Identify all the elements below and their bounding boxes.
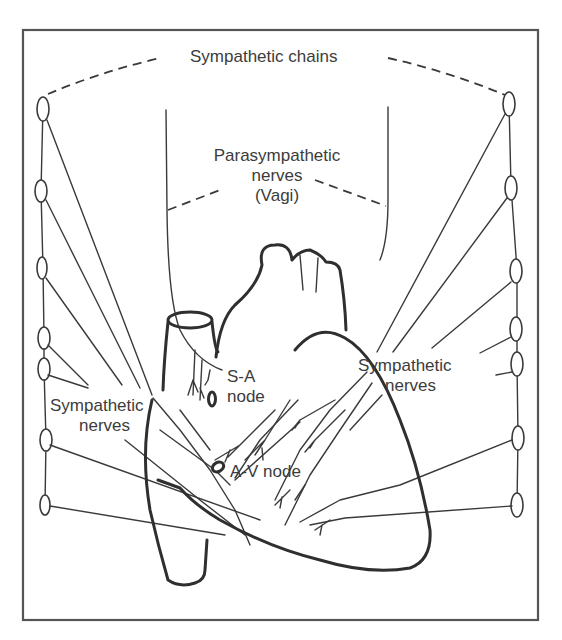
label-parasympathetic-line2: nerves [195, 166, 359, 185]
sympathetic-chain-left-dashed [48, 58, 160, 94]
heart-innervation-illustration [0, 0, 562, 640]
heart-outline [145, 245, 430, 585]
label-sympathetic-chains: Sympathetic chains [190, 47, 337, 66]
nerve-terminal-branches [188, 350, 345, 535]
sympathetic-chain-right-dashed [388, 58, 505, 95]
label-sa-node-line1: S-A [227, 367, 255, 386]
label-sympathetic-nerves-right-line2: nerves [385, 376, 436, 395]
label-sympathetic-nerves-right-line1: Sympathetic [358, 356, 452, 375]
label-parasympathetic-line1: Parasympathetic [195, 146, 359, 165]
left-sympathetic-chain [35, 97, 52, 515]
right-sympathetic-chain [503, 92, 524, 517]
label-sympathetic-nerves-left-line1: Sympathetic [50, 396, 144, 415]
label-sa-node-line2: node [227, 387, 265, 406]
ganglion-icon [37, 97, 49, 121]
label-parasympathetic-line3: (Vagi) [195, 186, 359, 205]
diagram-frame [23, 30, 538, 620]
label-sympathetic-nerves-left-line2: nerves [79, 416, 130, 435]
diagram-canvas: Sympathetic chains Parasympathetic nerve… [0, 0, 562, 640]
label-av-node: A-V node [230, 462, 301, 481]
sa-node-icon [209, 392, 216, 406]
av-node-icon [211, 460, 226, 474]
